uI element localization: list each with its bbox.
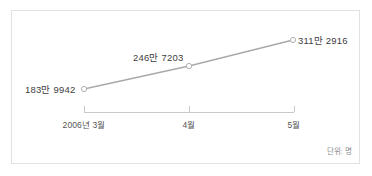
data-label-point-2: 311만 2916 (298, 33, 348, 47)
unit-note: 단위: 명 (327, 145, 352, 156)
chart-container: 183만 9942 246만 7203 311만 2916 2006년 3월 4… (0, 0, 372, 176)
x-axis-tick-label-1: 4월 (183, 118, 196, 130)
data-label-point-0: 183만 9942 (25, 82, 75, 96)
x-axis-tick-label-2: 5월 (288, 118, 301, 130)
x-axis-tick-label-0: 2006년 3월 (63, 118, 106, 130)
data-label-point-1: 246만 7203 (133, 50, 183, 64)
